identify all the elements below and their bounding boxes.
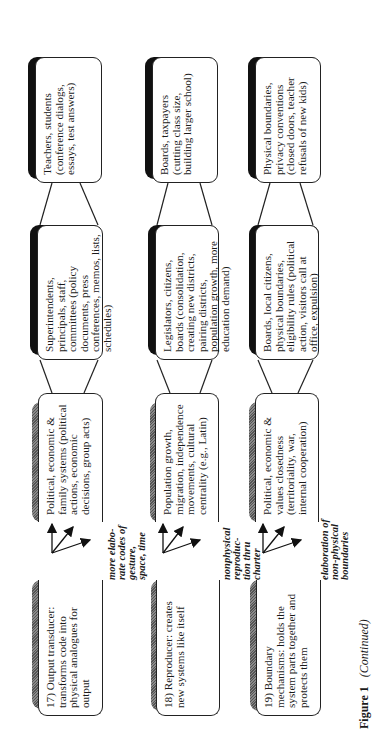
row-18-level-1-box: Population growth, migration, independen… [155, 393, 219, 522]
row-18-label-text: 18) Reproducer: creates new systems like… [162, 601, 186, 708]
row-17-level-3-box: Teachers, students (conference dialogs, … [35, 57, 102, 183]
row-19-arrow-note: elaboration of non-physical boundaries [320, 518, 350, 580]
figure-label: Figure 1 [357, 686, 371, 729]
row-18-level-2-box: Legislators, citizens, boards (consolida… [155, 225, 219, 360]
row-17-level-3-text: Teachers, students (conference dialogs, … [41, 83, 76, 175]
row-18-level-3-box: Boards, taxpayers (cutting class size, b… [152, 57, 218, 183]
row-19-label-box: 19) Boundary mechanisms: holds the syste… [256, 580, 321, 716]
row-17-level-1-text: Political, economic & family systems (po… [44, 404, 91, 515]
row-19-label-text: 19) Boundary mechanisms: holds the syste… [262, 594, 309, 708]
row-18-arrow-note: nonphysical reproduc-tion thru charter [222, 522, 262, 580]
row-17-arrow-note: more elabo-rate codes of gesture, space,… [107, 522, 147, 580]
row-19-level-1-box: Political, economic & values closedness … [255, 393, 319, 522]
row-18-label-box: 18) Reproducer: creates new systems like… [156, 580, 220, 716]
row-18-level-1-text: Population growth, migration, independen… [161, 404, 208, 515]
row-19-level-2-box: Boards, local citizens, physical boundar… [255, 225, 319, 360]
row-17-label-box: 17) Output transducer: transforms code i… [38, 580, 103, 716]
figure-caption: Figure 1 (Continued) [357, 569, 372, 729]
row-18-level-3-text: Boards, taxpayers (cutting class size, b… [158, 73, 193, 175]
row-19-level-1-text: Political, economic & values closedness … [261, 417, 308, 515]
rotated-figure: 17) Output transducer: transforms code i… [0, 0, 390, 749]
row-17-level-2-box: Superintendents, principals, staff, comm… [37, 225, 103, 360]
row-19-level-3-box: Physical boundaries, privacy conventions… [255, 57, 321, 183]
row-17-level-1-box: Political, economic & family systems (po… [38, 393, 103, 522]
figure-continued: (Continued) [357, 619, 371, 677]
row-17-level-2-text: Superintendents, principals, staff, comm… [43, 234, 113, 352]
row-19-level-3-text: Physical boundaries, privacy conventions… [261, 77, 308, 175]
row-19-level-2-text: Boards, local citizens, physical boundar… [261, 241, 319, 352]
row-17-label-text: 17) Output transducer: transforms code i… [44, 607, 91, 708]
